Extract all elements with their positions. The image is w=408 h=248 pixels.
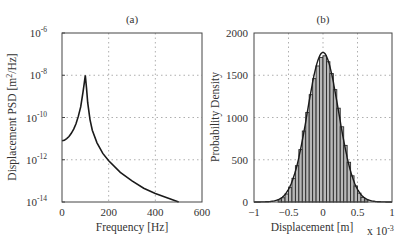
y-tick-label: 500 [232, 154, 249, 166]
x-tick-label: 1 [389, 206, 395, 218]
y-tick-label: 10-14 [26, 194, 47, 208]
panel-a: (a) 10-610-810-1010-1210-14 0200400600 F… [5, 13, 211, 234]
psd-curve [62, 75, 179, 202]
histogram-bar [282, 198, 285, 202]
y-tick-label: 10-12 [26, 152, 47, 166]
histogram-bar [309, 95, 312, 202]
histogram-bar [330, 74, 333, 202]
histogram-bar [323, 56, 326, 202]
y-tick-label: 10-8 [30, 67, 47, 81]
y-tick-label: 1500 [226, 69, 249, 81]
histogram-bar [337, 108, 340, 202]
panel-a-x-ticks: 0200400600 [59, 206, 211, 218]
histogram-bar [302, 131, 305, 202]
x-tick-label: −0.5 [279, 206, 299, 218]
histogram-bar [333, 90, 336, 202]
histogram-bar [285, 194, 288, 202]
x-tick-label: 200 [100, 206, 117, 218]
panel-a-title: (a) [126, 13, 139, 26]
panel-b-x-label: Displacement [m] [271, 221, 354, 234]
x-tick-label: 0 [320, 206, 326, 218]
x-tick-label: −1 [248, 206, 260, 218]
panel-a-x-label: Frequency [Hz] [96, 221, 168, 234]
x-tick-label: 0 [59, 206, 65, 218]
panel-a-frame [62, 33, 202, 202]
histogram-bars [278, 56, 368, 202]
x-tick-label: 0.5 [351, 206, 365, 218]
histogram-bar [316, 66, 319, 202]
histogram-bar [313, 79, 316, 202]
x-tick-label: 400 [147, 206, 164, 218]
y-tick-label: 1000 [226, 112, 249, 124]
histogram-bar [306, 112, 309, 202]
y-tick-label: 10-10 [26, 110, 47, 124]
panel-b-x-multiplier: x 10-3 [367, 224, 394, 237]
panel-a-grid [62, 33, 202, 202]
panel-b-y-label: Probability Density [209, 72, 222, 162]
y-tick-label: 10-6 [30, 25, 47, 39]
histogram-bar [320, 58, 323, 202]
figure: (a) 10-610-810-1010-1210-14 0200400600 F… [0, 0, 408, 248]
panel-b-y-ticks: 2000150010005000 [226, 27, 249, 208]
y-tick-label: 2000 [226, 27, 249, 39]
panel-b-title: (b) [317, 13, 330, 26]
histogram-bar [326, 62, 329, 202]
panel-b: (b) 2000150010005000 −1−0.500.51 Displac… [209, 13, 395, 237]
panel-a-y-ticks: 10-610-810-1010-1210-14 [26, 25, 65, 208]
panel-b-x-ticks: −1−0.500.51 [248, 206, 395, 218]
x-tick-label: 600 [194, 206, 211, 218]
panel-a-y-label: Displacement PSD [m2/Hz] [5, 53, 19, 180]
